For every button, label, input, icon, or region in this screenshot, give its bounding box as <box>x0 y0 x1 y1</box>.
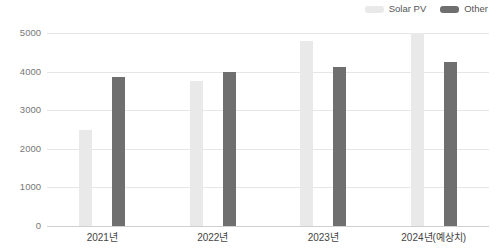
y-tick-label-3000: 3000 <box>0 105 41 115</box>
plot-area <box>47 33 489 226</box>
y-tick-label-2000: 2000 <box>0 144 41 154</box>
bar[interactable] <box>300 41 313 226</box>
bar-group <box>379 33 490 226</box>
y-tick-label-0: 0 <box>0 221 41 231</box>
bar-chart: Solar PV Other 500040003000200010000 202… <box>0 0 496 251</box>
bar[interactable] <box>190 81 203 226</box>
bar-group <box>47 33 158 226</box>
legend-label-solar-pv: Solar PV <box>389 4 427 14</box>
chart-legend: Solar PV Other <box>365 2 488 16</box>
bar-group <box>268 33 379 226</box>
bar[interactable] <box>112 77 125 226</box>
y-tick-label-1000: 1000 <box>0 183 41 193</box>
bar[interactable] <box>79 130 92 227</box>
gridline-0 <box>47 226 489 227</box>
x-axis: 2021년2022년2023년2024년(예상치) <box>47 228 489 248</box>
bar-groups <box>47 33 489 226</box>
x-tick-label-2: 2023년 <box>268 228 379 248</box>
legend-swatch-other <box>440 6 459 13</box>
x-tick-label-1: 2022년 <box>158 228 269 248</box>
legend-label-other: Other <box>464 4 488 14</box>
x-tick-label-0: 2021년 <box>47 228 158 248</box>
x-tick-label-3: 2024년(예상치) <box>379 228 490 248</box>
y-axis: 500040003000200010000 <box>0 33 41 226</box>
legend-item-other[interactable]: Other <box>440 4 488 14</box>
bar[interactable] <box>223 72 236 226</box>
bar-group <box>158 33 269 226</box>
bar[interactable] <box>411 33 424 226</box>
legend-swatch-solar-pv <box>365 6 384 13</box>
y-tick-label-5000: 5000 <box>0 28 41 38</box>
bar[interactable] <box>333 67 346 226</box>
bar[interactable] <box>444 62 457 226</box>
y-tick-label-4000: 4000 <box>0 67 41 77</box>
legend-item-solar-pv[interactable]: Solar PV <box>365 4 427 14</box>
